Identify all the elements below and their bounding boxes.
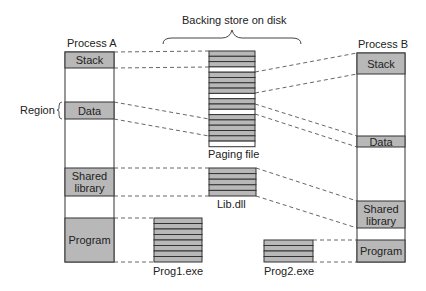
- process-b-label: Process B: [358, 38, 408, 50]
- process-b-stack: Stack: [357, 53, 405, 74]
- process-b-program: Program: [357, 240, 405, 262]
- process-a-stack: Stack: [65, 52, 114, 68]
- process-b-outline: [357, 53, 405, 262]
- prog2-exe-label: Prog2.exe: [264, 265, 314, 277]
- paging-file-block: [209, 51, 255, 147]
- process-b-shared-library: Shared library: [357, 201, 405, 228]
- lib-dll-label: Lib.dll: [217, 198, 246, 210]
- paging-file-label: Paging file: [208, 148, 259, 160]
- prog2-exe-block: [264, 240, 313, 262]
- process-a-shared-library: Shared library: [65, 168, 114, 196]
- lib-dll-block: [209, 168, 256, 196]
- region-label: Region: [20, 104, 55, 116]
- backing-store-title: Backing store on disk: [182, 14, 287, 26]
- process-a-data: Data: [65, 102, 114, 119]
- process-a-program: Program: [65, 218, 114, 262]
- process-b-data: Data: [357, 136, 405, 147]
- prog1-exe-block: [154, 218, 202, 262]
- prog1-exe-label: Prog1.exe: [153, 265, 203, 277]
- region-brace: [57, 102, 62, 119]
- backing-store-brace: [163, 30, 301, 44]
- process-a-label: Process A: [67, 37, 117, 49]
